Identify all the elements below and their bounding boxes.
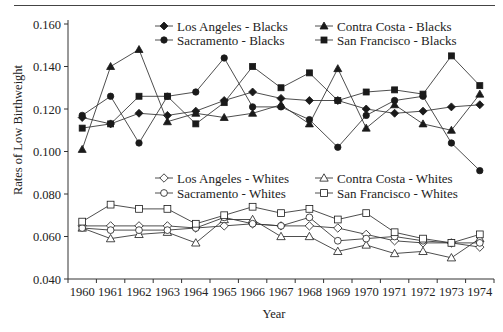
square-marker (420, 91, 426, 97)
y-tick-label: 0.140 (33, 60, 61, 74)
square-marker (420, 235, 427, 242)
square-marker (477, 83, 483, 89)
circle-marker (477, 167, 483, 173)
square-marker (136, 205, 143, 212)
x-axis-title: Year (262, 307, 286, 321)
square-marker (164, 93, 170, 99)
triangle-marker (419, 247, 427, 254)
diamond-marker (391, 109, 399, 117)
diamond-marker (249, 88, 257, 96)
x-tick-label: 1969 (325, 285, 350, 299)
circle-marker (335, 144, 341, 150)
x-tick-label: 1970 (354, 285, 379, 299)
y-tick-label: 0.160 (33, 18, 61, 32)
square-marker (107, 201, 114, 208)
triangle-marker (192, 239, 200, 246)
low-birthweight-chart: 0.0400.0600.0800.1000.1200.1400.16019601… (0, 0, 503, 332)
y-tick-label: 0.060 (33, 230, 61, 244)
diamond-icon (160, 174, 168, 182)
square-marker (250, 64, 256, 70)
circle-marker (107, 227, 114, 234)
x-tick-label: 1965 (212, 285, 237, 299)
x-tick-label: 1961 (98, 285, 123, 299)
circle-marker (476, 239, 483, 246)
triangle-marker (78, 145, 86, 152)
x-tick-label: 1968 (297, 285, 322, 299)
circle-marker (391, 97, 397, 103)
circle-marker (306, 116, 312, 122)
triangle-marker (107, 63, 115, 70)
square-marker (278, 210, 285, 217)
circle-marker (193, 89, 199, 95)
square-marker (192, 220, 199, 227)
triangle-marker (362, 124, 370, 131)
square-marker (335, 98, 341, 104)
legend-label: Los Angeles - Blacks (177, 19, 288, 34)
circle-marker (278, 104, 284, 110)
triangle-marker (277, 232, 285, 239)
triangle-marker (334, 65, 342, 72)
square-marker (249, 203, 256, 210)
triangle-icon (320, 174, 328, 181)
square-marker (278, 85, 284, 91)
triangle-marker (305, 232, 313, 239)
legend-item: San Francisco - Whites (315, 186, 458, 201)
square-marker (392, 87, 398, 93)
legend-item: Contra Costa - Whites (315, 171, 453, 186)
circle-marker (306, 214, 313, 221)
x-tick-label: 1964 (183, 285, 209, 299)
diamond-icon (160, 22, 168, 30)
y-tick-label: 0.080 (33, 188, 61, 202)
circle-icon (161, 37, 167, 43)
x-tick-label: 1960 (70, 285, 95, 299)
square-marker (363, 210, 370, 217)
square-marker (221, 212, 228, 219)
circle-icon (161, 190, 168, 197)
y-tick-label: 0.040 (33, 273, 61, 287)
circle-marker (278, 222, 285, 229)
triangle-icon (320, 22, 328, 29)
data-series (78, 46, 484, 261)
legend-item: Sacramento - Blacks (155, 33, 285, 48)
legend-item: San Francisco - Blacks (315, 33, 457, 48)
circle-marker (363, 112, 369, 118)
square-marker (448, 239, 455, 246)
square-marker (363, 89, 369, 95)
legend-item: Sacramento - Whites (155, 186, 286, 201)
square-marker (108, 121, 114, 127)
x-tick-label: 1962 (127, 285, 152, 299)
circle-marker (448, 140, 454, 146)
x-tick-label: 1967 (269, 285, 294, 299)
circle-marker (249, 104, 255, 110)
circle-marker (136, 227, 143, 234)
square-icon (321, 190, 328, 197)
axes: 0.0400.0600.0800.1000.1200.1400.16019601… (33, 18, 494, 300)
diamond-marker (419, 107, 427, 115)
diamond-marker (305, 97, 313, 105)
legend-label: Sacramento - Whites (177, 186, 286, 201)
legend-item: Contra Costa - Blacks (315, 19, 451, 34)
diamond-marker (135, 109, 143, 117)
circle-marker (249, 220, 256, 227)
square-marker (79, 218, 86, 225)
y-tick-label: 0.120 (33, 103, 61, 117)
square-marker (391, 229, 398, 236)
x-tick-label: 1972 (411, 285, 436, 299)
legend-label: Los Angeles - Whites (177, 171, 289, 186)
square-marker (221, 100, 227, 106)
square-marker (476, 231, 483, 238)
legend-label: San Francisco - Blacks (337, 33, 457, 48)
triangle-marker (476, 90, 484, 97)
circle-marker (363, 235, 370, 242)
x-tick-label: 1974 (467, 285, 493, 299)
legend-whites: Los Angeles - WhitesContra Costa - White… (155, 171, 458, 201)
legend-label: San Francisco - Whites (337, 186, 458, 201)
circle-marker (79, 112, 85, 118)
diamond-marker (305, 222, 313, 230)
triangle-marker (135, 46, 143, 53)
legend-item: Los Angeles - Blacks (155, 19, 288, 34)
legend-label: Sacramento - Blacks (177, 33, 285, 48)
square-marker (334, 216, 341, 223)
square-marker (306, 70, 312, 76)
legend-blacks: Los Angeles - BlacksContra Costa - Black… (155, 19, 457, 48)
